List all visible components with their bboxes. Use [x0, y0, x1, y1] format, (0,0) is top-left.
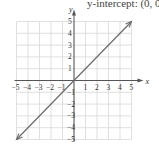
y-tick-label: 5: [68, 17, 72, 26]
x-tick-label: 4: [118, 83, 122, 92]
x-tick-label: 1: [84, 83, 88, 92]
x-tick-label: −4: [23, 83, 31, 92]
x-axis-arrow-icon: [138, 79, 144, 83]
x-tick-label: 5: [130, 83, 134, 92]
y-axis-arrow-icon: [72, 10, 76, 16]
y-tick-label: −2: [67, 100, 75, 109]
x-tick-label: −3: [35, 83, 43, 92]
y-tick-label: −4: [67, 123, 75, 132]
y-tick-label: −5: [67, 135, 75, 144]
x-tick-label: 3: [107, 83, 111, 92]
y-tick-label: 1: [68, 64, 72, 73]
y-axis-label: y: [68, 5, 73, 14]
y-tick-label: −1: [67, 88, 75, 97]
y-tick-label: 2: [68, 52, 72, 61]
x-tick-label: 2: [95, 83, 99, 92]
x-tick-label: −5: [12, 83, 20, 92]
coordinate-plane: xy −5−4−3−2−11234554321−1−2−3−4−5: [0, 0, 159, 149]
y-tick-label: 4: [68, 29, 72, 38]
x-tick-label: −2: [46, 83, 54, 92]
y-tick-label: −3: [67, 111, 75, 120]
y-tick-label: 3: [68, 41, 72, 50]
x-axis-label: x: [145, 77, 150, 86]
